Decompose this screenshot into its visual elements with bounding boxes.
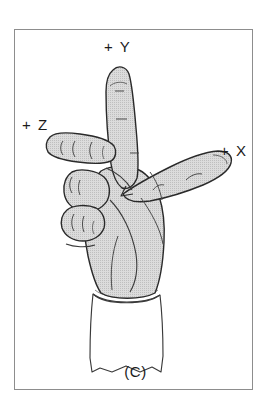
figure-frame [14, 29, 253, 390]
figure-root: + Y + Z + X (C) [0, 0, 271, 403]
figure-caption: (C) [0, 363, 271, 380]
axis-label-x: + X [220, 143, 247, 158]
axis-label-z: + Z [22, 117, 49, 132]
axis-label-y: + Y [104, 39, 131, 54]
